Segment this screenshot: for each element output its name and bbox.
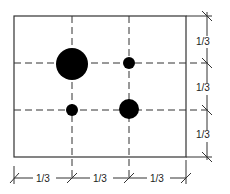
dimension-label-bottom-2: 1/3	[93, 173, 107, 184]
small-dot-bottom-left	[66, 104, 78, 116]
rule-of-thirds-diagram: 1/3 1/3 1/3 1/3 1/3 1/3	[0, 0, 230, 194]
frame	[14, 16, 186, 157]
grid-lines	[14, 16, 210, 180]
dimension-label-bottom-3: 1/3	[150, 173, 164, 184]
dimension-label-right-3: 1/3	[196, 129, 210, 140]
dimension-label-right-1: 1/3	[196, 36, 210, 47]
large-dot	[56, 48, 88, 80]
small-dot-top-right	[123, 57, 135, 69]
dimension-label-right-2: 1/3	[196, 82, 210, 93]
dimension-label-bottom-1: 1/3	[36, 173, 50, 184]
medium-dot	[119, 99, 139, 119]
